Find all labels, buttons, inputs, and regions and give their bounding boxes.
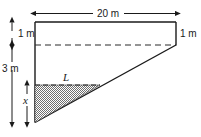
left-total-depth-dimension: 3 m bbox=[2, 46, 19, 123]
left-total-depth-label: 3 m bbox=[2, 63, 19, 74]
bed-slope-line bbox=[35, 45, 176, 123]
right-depth-label: 1 m bbox=[180, 28, 197, 39]
left-upper-depth-dimension: 1 m bbox=[12, 23, 35, 45]
flow-depth-label: x bbox=[22, 94, 28, 106]
flow-depth-dimension: x bbox=[22, 86, 28, 123]
left-upper-depth-label: 1 m bbox=[18, 28, 35, 39]
cross-section-figure: 20 m 1 m 3 m bbox=[0, 0, 201, 137]
top-width-label: 20 m bbox=[97, 8, 119, 19]
surface-length-label: L bbox=[62, 71, 69, 83]
diagram-canvas: 20 m 1 m 3 m bbox=[0, 0, 201, 137]
top-width-dimension: 20 m bbox=[36, 8, 175, 19]
